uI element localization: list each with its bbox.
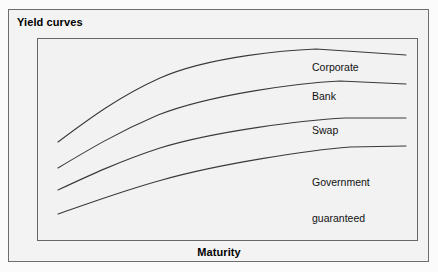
yield-curves-plot xyxy=(0,0,438,272)
yield-curves-figure: Yield curves Corporate Bank Swap Governm… xyxy=(0,0,438,272)
curve-label-corporate: Corporate xyxy=(312,61,359,73)
curve-label-bank: Bank xyxy=(312,90,336,102)
curve-label-government-guaranteed: Government guaranteed xyxy=(312,152,370,248)
curve-label-government-line2: guaranteed xyxy=(312,212,370,224)
curve-label-government-line1: Government xyxy=(312,176,370,188)
x-axis-label: Maturity xyxy=(0,246,438,258)
curve-label-swap: Swap xyxy=(312,124,338,136)
